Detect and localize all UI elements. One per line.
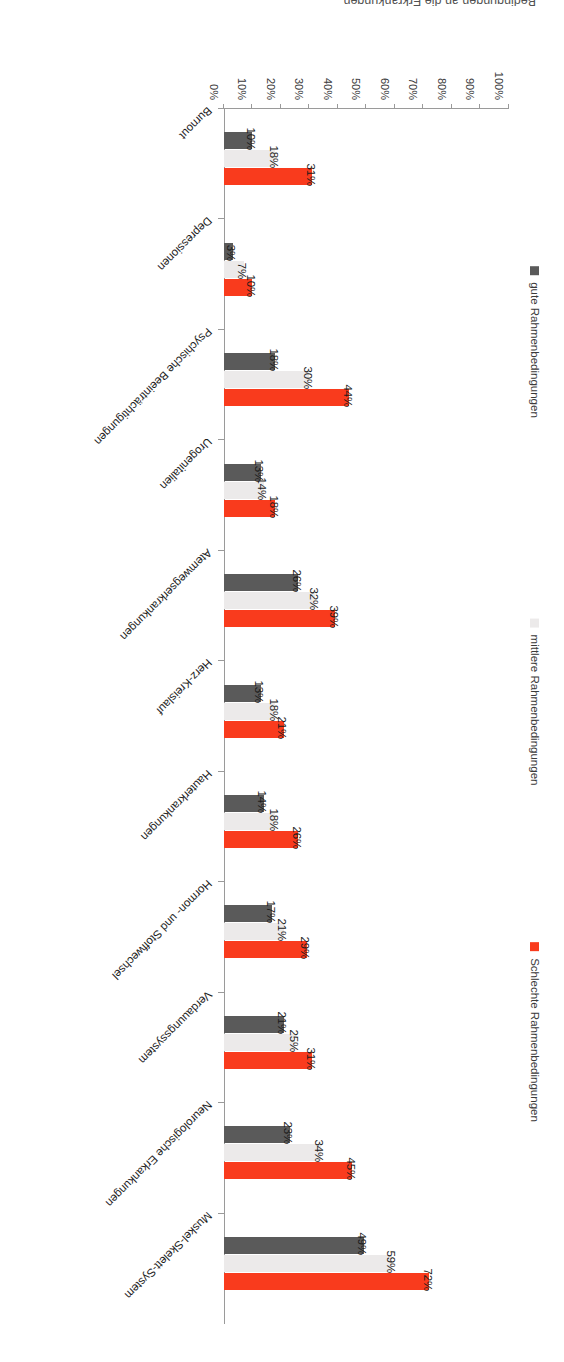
bar-value-label: 13% xyxy=(253,680,265,702)
bar-value-label: 45% xyxy=(344,1158,356,1180)
category-label: Hormon- und Stoffwechsel xyxy=(110,878,214,982)
bar-value-label: 26% xyxy=(290,827,302,849)
axis-tick-label: 40% xyxy=(322,78,334,100)
category-label: Psychische Beeinträchtigungen xyxy=(92,326,214,448)
bar-group: 18%14%13% xyxy=(224,440,509,550)
bar-0 xyxy=(224,941,307,958)
bar-value-label: 44% xyxy=(341,385,353,407)
category-label: Burnout xyxy=(177,105,214,142)
bar-2 xyxy=(224,1237,364,1254)
bar-value-label: 26% xyxy=(290,570,302,592)
bar-0 xyxy=(224,1273,429,1290)
bar-value-label: 3% xyxy=(225,244,237,260)
category-label: Neurologische Erkankungen xyxy=(104,1099,215,1210)
axis-tick-label: 20% xyxy=(265,78,277,100)
bar-0 xyxy=(224,389,349,406)
axis-tick-label: 80% xyxy=(436,78,448,100)
bar-value-label: 10% xyxy=(245,128,257,150)
bar-group: 44%30%18% xyxy=(224,330,509,440)
bar-1 xyxy=(224,1034,295,1051)
legend-item-label: gute Rahmenbedingungen xyxy=(529,282,541,418)
legend-swatch-icon xyxy=(531,266,540,275)
category-label: Verdauungssystem xyxy=(137,988,215,1066)
bar-value-label: 21% xyxy=(276,919,288,941)
scanned-chart-page: Bedingungen an die Erkrankungen Schlecht… xyxy=(0,0,564,1362)
bar-value-label: 25% xyxy=(287,1029,299,1051)
bar-group: 31%18%10% xyxy=(224,109,509,219)
bar-value-label: 18% xyxy=(267,809,279,831)
axis-tick-label: 70% xyxy=(408,78,420,100)
bar-value-label: 39% xyxy=(327,606,339,628)
category-label: Hauterkrankungen xyxy=(139,767,214,842)
bar-value-label: 7% xyxy=(236,262,248,278)
bar-0 xyxy=(224,831,298,848)
legend-swatch-icon xyxy=(531,942,540,951)
bar-value-label: 18% xyxy=(267,146,279,168)
bar-value-label: 18% xyxy=(267,698,279,720)
category-label: Muskel-Skelett-System xyxy=(123,1209,215,1301)
category-label: Urogenitalien xyxy=(158,436,214,492)
bar-group: 31%25%21% xyxy=(224,993,509,1103)
bar-value-label: 17% xyxy=(264,901,276,923)
bar-1 xyxy=(224,1144,321,1161)
legend-item-label: Schlechte Rahmenbedingungen xyxy=(529,958,541,1122)
bar-value-label: 59% xyxy=(384,1250,396,1272)
category-label: Depressionen xyxy=(156,215,215,274)
bar-0 xyxy=(224,168,312,185)
category-label: Atemwegserkrankungen xyxy=(118,547,214,643)
bar-1 xyxy=(224,371,310,388)
bar-0 xyxy=(224,1162,352,1179)
bar-2 xyxy=(224,574,298,591)
axis-tick-label: 0% xyxy=(208,84,220,100)
bar-value-label: 18% xyxy=(267,495,279,517)
bar-0 xyxy=(224,1052,312,1069)
legend-item-2: gute Rahmenbedingungen xyxy=(512,192,558,492)
bar-group: 26%18%14% xyxy=(224,772,509,882)
bar-value-label: 72% xyxy=(421,1268,433,1290)
legend-item-1: mittlere Rahmenbedingungen xyxy=(512,552,558,852)
bar-value-label: 49% xyxy=(356,1232,368,1254)
bar-value-label: 29% xyxy=(299,937,311,959)
bar-value-label: 32% xyxy=(307,588,319,610)
bar-value-label: 14% xyxy=(256,791,268,813)
bar-value-label: 31% xyxy=(304,164,316,186)
bar-0 xyxy=(224,610,335,627)
bar-group: 10%7%3% xyxy=(224,219,509,329)
bar-value-label: 18% xyxy=(267,349,279,371)
legend-swatch-icon xyxy=(531,619,540,628)
bar-group: 45%34%23% xyxy=(224,1103,509,1213)
bar-group: 29%21%17% xyxy=(224,882,509,992)
category-label: Herz-Kreislauf xyxy=(154,657,214,717)
axis-tick-label: 30% xyxy=(294,78,306,100)
bar-value-label: 31% xyxy=(304,1047,316,1069)
axis-tick-label: 50% xyxy=(351,78,363,100)
axis-tick-label: 90% xyxy=(465,78,477,100)
axis-tick-label: 10% xyxy=(237,78,249,100)
axis-tick-label: 100% xyxy=(493,72,505,100)
bar-value-label: 21% xyxy=(276,1011,288,1033)
bar-chart-figure: Bedingungen an die Erkrankungen Schlecht… xyxy=(0,0,564,1362)
bar-group: 39%32%26% xyxy=(224,551,509,661)
bar-1 xyxy=(224,592,315,609)
bar-2 xyxy=(224,1126,290,1143)
bar-value-label: 13% xyxy=(253,459,265,481)
bar-group: 21%18%13% xyxy=(224,661,509,771)
figure-caption: Bedingungen an die Erkrankungen xyxy=(16,0,536,8)
bar-value-label: 23% xyxy=(282,1122,294,1144)
plot-area: 0%10%20%30%40%50%60%70%80%90%100%72%59%4… xyxy=(224,109,509,1324)
legend-item-0: Schlechte Rahmenbedingungen xyxy=(512,882,558,1182)
bar-group: 72%59%49% xyxy=(224,1214,509,1324)
bar-1 xyxy=(224,1255,392,1272)
bar-value-label: 34% xyxy=(313,1140,325,1162)
chart-legend: Schlechte Rahmenbedingungenmittlere Rahm… xyxy=(512,202,558,1182)
legend-item-label: mittlere Rahmenbedingungen xyxy=(529,635,541,786)
axis-tick-label: 60% xyxy=(379,78,391,100)
bar-value-label: 30% xyxy=(302,367,314,389)
